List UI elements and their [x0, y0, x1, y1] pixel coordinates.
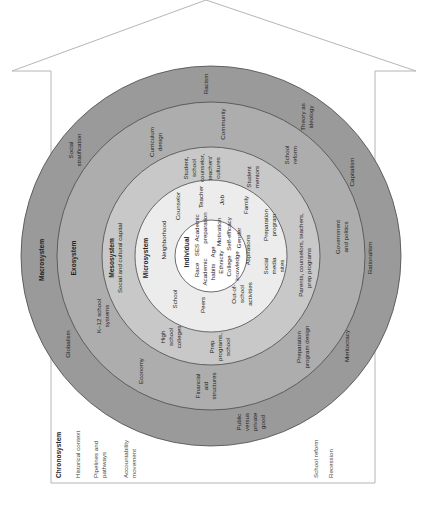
micro-item-neighborhood: Neighborhood	[160, 220, 167, 259]
chrono-item-accountability-1: Accountability	[122, 439, 129, 478]
meso-item-student-cultures-4: teachers'	[206, 156, 213, 181]
macro-item-globalism: Globalism	[64, 330, 71, 358]
macrosystem-title: Macrosystem	[38, 239, 46, 281]
meso-item-prep-programs-1: Prep	[208, 340, 215, 354]
ind-item-self-efficacy: Self-efficacy	[225, 216, 232, 250]
micro-item-prep-program-2: program	[270, 213, 277, 236]
microsystem-title: Microsystem	[142, 238, 150, 278]
macro-item-meritocracy: Meritocracy	[343, 329, 350, 362]
meso-item-financial-aid-3: structures	[210, 372, 217, 399]
chronosystem-title: Chronosystem	[55, 432, 63, 478]
exosystem-title: Exosystem	[70, 240, 78, 275]
micro-item-out-of-school-2: school	[238, 285, 245, 303]
meso-item-student-cultures-5: cultures	[214, 157, 221, 179]
ind-item-academic-prep-2: preparation	[201, 212, 208, 244]
ecological-model-diagram: Macrosystem Racism Theory as ideology Ca…	[0, 0, 430, 523]
ind-item-age: Age	[209, 246, 216, 258]
meso-item-financial-aid-2: aid	[202, 381, 209, 390]
ind-item-motivation: Motivation	[215, 217, 222, 246]
macro-item-racism: Racism	[202, 74, 209, 95]
meso-item-prep-programs-3: school	[224, 338, 231, 356]
ind-item-academic-habits-2: habits	[209, 264, 216, 281]
micro-item-out-of-school-3: activities	[246, 282, 253, 306]
chrono-item-pipelines-1: Pipelines and	[92, 440, 99, 478]
macro-item-social-strat-2: stratification	[75, 133, 82, 167]
exo-item-k12-2: systems	[103, 305, 110, 328]
exo-item-prep-design-1: Preparation	[295, 330, 302, 363]
mesosystem-title: Mesosystem	[108, 238, 116, 278]
micro-item-teacher: Teacher	[197, 186, 204, 208]
exo-item-curriculum-1: Curriculum	[148, 127, 155, 157]
chrono-item-accountability-2: movement	[130, 449, 137, 478]
macro-item-public-4: good	[259, 415, 266, 429]
chrono-item-school-reform: School reform	[312, 439, 319, 478]
meso-item-student-cultures-1: Student,	[182, 156, 189, 179]
ind-item-academic-habits-1: Academic	[201, 258, 208, 285]
mesosystem-subtitle: Social and cultural capital	[116, 223, 123, 293]
micro-item-job: Job	[218, 194, 225, 205]
macro-item-theory-ideology-2: ideology	[307, 105, 314, 129]
meso-item-student-cultures-2: school	[190, 159, 197, 177]
meso-item-student-cultures-3: counselor,	[198, 154, 205, 182]
exo-item-economy: Economy	[137, 357, 144, 384]
exo-item-k12-1: K–12 school	[95, 299, 102, 333]
exo-item-government-2: and politics	[342, 222, 349, 253]
meso-item-student-mentors-1: Student	[245, 166, 252, 188]
chrono-item-historical-context: Historical context	[74, 431, 81, 478]
macro-item-public-3: private	[251, 412, 258, 431]
ind-item-ses: SES	[193, 244, 200, 256]
macro-item-social-strat-1: Social	[67, 142, 74, 159]
micro-item-family: Family	[242, 195, 249, 214]
meso-item-high-school-1: High	[159, 330, 166, 343]
ind-item-ethnicity: Ethnicity	[217, 249, 224, 273]
micro-item-social-media-2: media	[270, 257, 277, 274]
micro-item-peers: Peers	[199, 297, 206, 313]
micro-item-school: School	[171, 290, 178, 309]
meso-item-high-school-2: school	[167, 328, 174, 346]
ind-item-college-knowledge-1: College	[225, 255, 232, 277]
micro-item-out-of-school-1: Out-of-	[230, 284, 237, 303]
exo-item-curriculum-2: design	[156, 132, 163, 151]
meso-item-student-mentors-2: mentors	[253, 166, 260, 188]
ind-item-aspirations: Aspirations	[244, 235, 251, 266]
macro-item-theory-ideology-1: Theory as	[299, 103, 306, 131]
macro-item-public-2: versus	[243, 413, 250, 431]
individual-title: Individual	[183, 236, 190, 267]
meso-item-financial-aid-1: Financial	[194, 374, 201, 399]
macro-item-rationalism: Rationalism	[366, 242, 373, 274]
macro-item-capitalism: Capitalism	[348, 158, 355, 187]
exo-item-government-1: Government	[334, 220, 341, 254]
exo-item-school-reform-1: School	[283, 146, 290, 165]
macro-item-public-1: Public	[235, 414, 242, 431]
chrono-item-recession: Recession	[327, 449, 334, 478]
meso-item-parents-2: prep programs	[305, 248, 312, 288]
ind-item-gender: Gender	[235, 228, 242, 249]
roof-line	[12, 0, 416, 71]
micro-item-social-media-3: sites	[278, 260, 285, 273]
ind-item-college-knowledge-2: knowledge	[233, 251, 240, 281]
ind-item-race: Race	[193, 262, 200, 277]
micro-item-social-media-1: Social	[262, 258, 269, 275]
exo-item-prep-design-2: program design	[303, 325, 310, 369]
micro-item-prep-program-1: Preparation	[262, 208, 269, 241]
chrono-item-pipelines-2: pathways	[100, 452, 107, 478]
micro-item-counselor: Counselor	[174, 192, 181, 220]
exo-item-community: Community	[219, 107, 226, 139]
meso-item-high-school-3: colleges	[175, 326, 182, 349]
ind-item-academic-prep-1: Academic	[193, 214, 200, 241]
meso-item-parents-1: Parents, counselors, teachers,	[297, 213, 304, 297]
exo-item-school-reform-2: reform	[291, 146, 298, 164]
meso-item-prep-programs-2: programs,	[216, 333, 223, 361]
